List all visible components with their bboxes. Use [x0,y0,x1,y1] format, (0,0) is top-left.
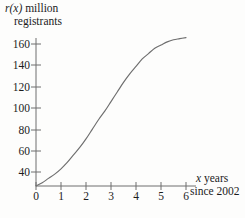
data-curve-r-of-x [36,38,186,186]
chart-plot-area [0,0,245,218]
scan-artifact-text [0,206,245,218]
axes-group [36,38,196,186]
chart-figure: r(x) million registrants x years since 2… [0,0,245,218]
